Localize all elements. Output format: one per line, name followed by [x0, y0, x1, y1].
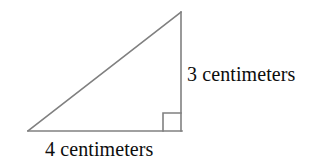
right-angle-marker-icon — [163, 113, 181, 131]
base-length-label: 4 centimeters — [45, 139, 153, 159]
right-triangle-figure: 3 centimeters 4 centimeters — [0, 0, 317, 163]
triangle-hypotenuse-line — [28, 12, 181, 131]
vertical-leg-length-label: 3 centimeters — [187, 64, 295, 84]
